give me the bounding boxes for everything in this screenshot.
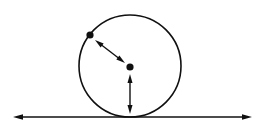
vertical-arrow-bottom-arrowhead xyxy=(128,105,133,114)
center-point-dot xyxy=(126,63,133,70)
ground-line-arrow xyxy=(13,114,252,120)
ground-line-right-arrowhead xyxy=(242,114,252,120)
vertical-arrow-top-arrowhead xyxy=(128,74,133,83)
vertical-arrow xyxy=(128,74,133,114)
geometry-figure xyxy=(0,0,266,132)
rim-point-dot xyxy=(86,31,93,38)
ground-line-left-arrowhead xyxy=(13,114,23,120)
diagram-canvas: Circle rolling on a straight line xyxy=(0,0,266,132)
radius-arrow xyxy=(95,40,125,63)
